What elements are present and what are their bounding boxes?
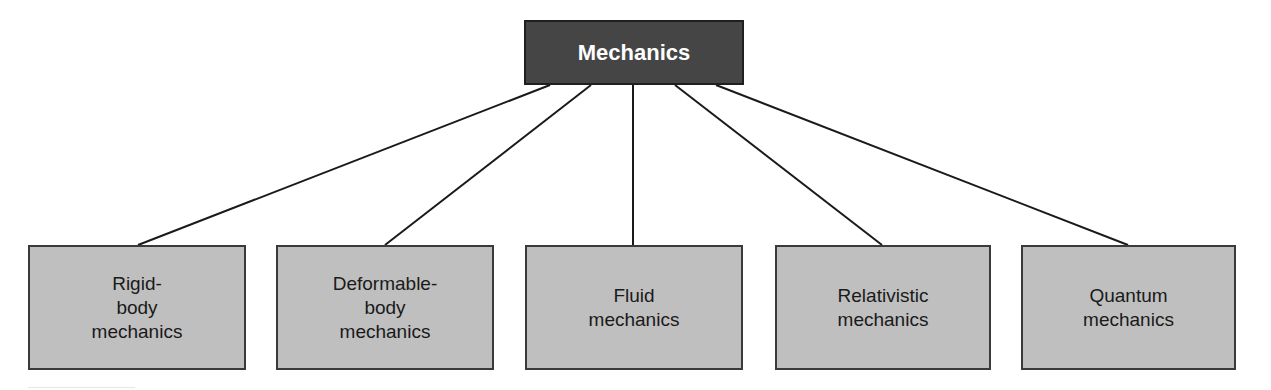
child-node-relativistic-mechanics: Relativistic mechanics bbox=[775, 245, 991, 370]
root-node-mechanics: Mechanics bbox=[524, 20, 744, 85]
child-node-quantum-mechanics: Quantum mechanics bbox=[1021, 245, 1236, 370]
child-label: Fluid mechanics bbox=[589, 284, 680, 332]
child-label: Deformable- body mechanics bbox=[333, 272, 438, 344]
child-node-deformable-body-mechanics: Deformable- body mechanics bbox=[276, 245, 494, 370]
child-label: Quantum mechanics bbox=[1083, 284, 1174, 332]
child-node-fluid-mechanics: Fluid mechanics bbox=[525, 245, 743, 370]
child-label: Rigid- body mechanics bbox=[92, 272, 183, 344]
child-node-rigid-body-mechanics: Rigid- body mechanics bbox=[28, 245, 246, 370]
child-label: Relativistic mechanics bbox=[838, 284, 929, 332]
mechanics-hierarchy-diagram: Mechanics Rigid- body mechanics Deformab… bbox=[0, 0, 1271, 390]
footer-divider bbox=[28, 387, 135, 388]
root-label: Mechanics bbox=[578, 40, 691, 66]
